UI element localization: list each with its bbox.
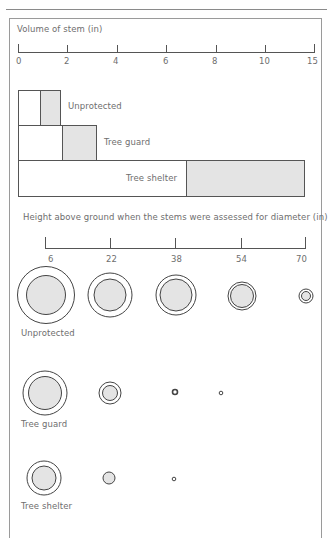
height-tick-6: 6 xyxy=(48,254,54,264)
bar-tree-guard-white xyxy=(19,126,63,161)
volume-tick-4: 4 xyxy=(113,56,119,66)
bar-unprotected-white xyxy=(19,91,41,126)
bar-unprotected-gray xyxy=(41,91,61,126)
height-chart-title: Height above ground when the stems were … xyxy=(23,212,328,222)
circles-tree-guard xyxy=(23,371,223,415)
row-label-tree-shelter: Tree shelter xyxy=(21,501,72,511)
volume-tick-10: 10 xyxy=(259,56,270,66)
bar-label-unprotected: Unprotected xyxy=(68,101,122,111)
bar-tree-shelter-gray xyxy=(187,161,305,197)
volume-tick-15: 15 xyxy=(307,56,318,66)
row-label-unprotected: Unprotected xyxy=(21,328,75,338)
volume-tick-2: 2 xyxy=(64,56,70,66)
row-label-tree-guard: Tree guard xyxy=(21,419,67,429)
bar-label-tree-shelter: Tree shelter xyxy=(126,173,177,183)
height-tick-38: 38 xyxy=(171,254,182,264)
volume-tick-0: 0 xyxy=(16,56,22,66)
height-tick-22: 22 xyxy=(106,254,117,264)
height-tick-54: 54 xyxy=(236,254,247,264)
bar-label-tree-guard: Tree guard xyxy=(104,137,150,147)
volume-tick-8: 8 xyxy=(212,56,218,66)
height-axis xyxy=(45,237,306,249)
circles-tree-shelter xyxy=(27,461,176,495)
volume-tick-6: 6 xyxy=(163,56,169,66)
bar-tree-guard-gray xyxy=(63,126,97,161)
height-tick-70: 70 xyxy=(296,254,307,264)
circles-unprotected xyxy=(18,267,314,324)
volume-axis xyxy=(18,44,315,53)
